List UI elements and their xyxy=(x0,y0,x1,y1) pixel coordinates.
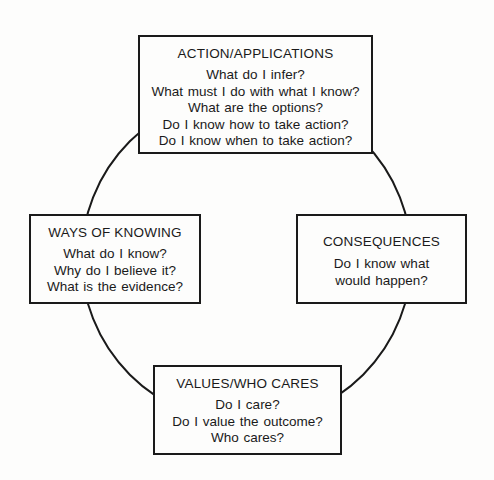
question: Do I know when to take action? xyxy=(140,133,371,150)
values-who-cares-box: VALUES/WHO CARES Do I care? Do I value t… xyxy=(153,365,342,455)
question: Do I care? xyxy=(155,397,340,414)
question: Do I know how to take action? xyxy=(140,117,371,134)
box-title: VALUES/WHO CARES xyxy=(155,376,340,391)
question: Do I know what xyxy=(298,256,465,273)
question: Why do I believe it? xyxy=(31,263,199,280)
box-title: CONSEQUENCES xyxy=(298,234,465,249)
box-title: WAYS OF KNOWING xyxy=(31,225,199,240)
consequences-box: CONSEQUENCES Do I know what would happen… xyxy=(296,214,467,304)
question: would happen? xyxy=(298,273,465,290)
question: What must I do with what I know? xyxy=(140,84,371,101)
question: What do I infer? xyxy=(140,67,371,84)
question: Who cares? xyxy=(155,430,340,447)
action-applications-box: ACTION/APPLICATIONS What do I infer? Wha… xyxy=(138,35,373,154)
question: What is the evidence? xyxy=(31,279,199,296)
question: What do I know? xyxy=(31,246,199,263)
question: Do I value the outcome? xyxy=(155,414,340,431)
question: What are the options? xyxy=(140,100,371,117)
box-title: ACTION/APPLICATIONS xyxy=(140,46,371,61)
ways-of-knowing-box: WAYS OF KNOWING What do I know? Why do I… xyxy=(29,214,201,304)
